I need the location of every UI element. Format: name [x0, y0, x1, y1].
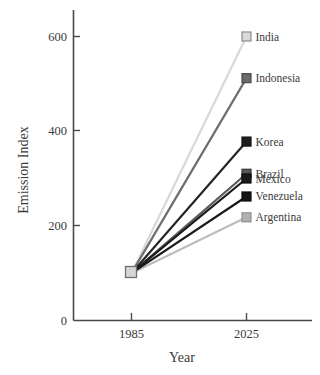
y-tick-label-600: 600: [48, 30, 67, 44]
series-line-india: [132, 37, 247, 274]
legend-label-argentina: Argentina: [256, 211, 302, 224]
series-marker-india: [242, 32, 251, 41]
legend-label-mexico: Mexico: [256, 173, 291, 185]
legend-label-indonesia: Indonesia: [256, 72, 301, 84]
chart-page: 600 400 200 0 1985 2025 Emission Index Y…: [0, 0, 320, 375]
x-tick-label-2025: 2025: [234, 327, 259, 341]
y-axis-title: Emission Index: [16, 126, 31, 214]
series-marker-korea: [242, 137, 251, 146]
axes-group: [74, 10, 313, 321]
series-marker-indonesia: [242, 74, 251, 83]
legend-label-korea: Korea: [256, 136, 284, 148]
y-tick-label-200: 200: [48, 219, 67, 233]
legend-label-india: India: [256, 31, 280, 43]
x-tick-label-1985: 1985: [119, 327, 144, 341]
y-tick-label-400: 400: [48, 124, 67, 138]
legend-label-venezuela: Venezuela: [256, 190, 303, 202]
origin-marker-1985: [126, 267, 137, 278]
x-axis-title: Year: [169, 350, 195, 365]
y-tick-label-0: 0: [61, 314, 67, 328]
series-marker-mexico: [242, 174, 251, 183]
series-markers-group: [242, 32, 251, 222]
emission-index-line-chart: 600 400 200 0 1985 2025 Emission Index Y…: [0, 0, 320, 375]
series-lines-group: [132, 37, 247, 274]
series-line-indonesia: [132, 78, 247, 273]
series-marker-argentina: [242, 213, 251, 222]
legend-group: IndiaIndonesiaKoreaBrazilMexicoVenezuela…: [256, 31, 303, 225]
series-marker-venezuela: [242, 192, 251, 201]
